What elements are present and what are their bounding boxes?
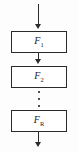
stage-box-1: F1 bbox=[11, 31, 67, 53]
stage-subscript-2: 2 bbox=[41, 76, 44, 83]
stage-subscript-r: R bbox=[40, 120, 44, 127]
stage-label-2: F2 bbox=[34, 71, 44, 83]
ellipsis-dot bbox=[38, 105, 40, 107]
stage-subscript-1: 1 bbox=[41, 41, 44, 48]
stage-base-2: F bbox=[34, 70, 40, 81]
stage-box-r: FR bbox=[11, 110, 67, 132]
stage-label-1: F1 bbox=[34, 36, 44, 48]
stage-base-r: F bbox=[34, 114, 40, 125]
stage-label-r: FR bbox=[34, 115, 45, 127]
connector-arrowhead-1-2-icon bbox=[35, 59, 41, 64]
stage-box-2: F2 bbox=[11, 66, 67, 88]
vertical-ellipsis-icon bbox=[37, 91, 42, 107]
stage-base-1: F bbox=[34, 35, 40, 46]
ellipsis-dot bbox=[38, 98, 40, 100]
output-arrowhead-icon bbox=[35, 142, 41, 147]
flow-diagram: F1 F2 FR bbox=[0, 0, 78, 152]
input-arrow-line bbox=[38, 4, 39, 26]
input-arrowhead-icon bbox=[35, 24, 41, 29]
ellipsis-dot bbox=[38, 91, 40, 93]
